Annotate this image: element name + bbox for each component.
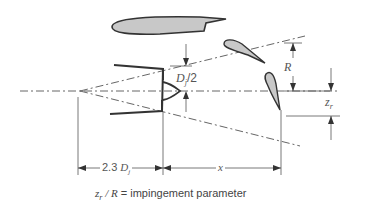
jet-spread-lower (80, 91, 300, 146)
nozzle-lower (110, 100, 162, 114)
offset-label: zr (325, 96, 333, 111)
half-diameter-label: Dj/2 (176, 72, 197, 87)
radius-label: R (284, 61, 291, 73)
impingement-diagram: Dj/2 R zr 2.3 Dj x zr / R = impingement … (0, 0, 372, 208)
figure-caption: zr / R = impingement parameter (95, 187, 246, 202)
axial-distance-label: x (216, 161, 225, 173)
wing-airfoil (112, 17, 226, 34)
diagram-graphics (0, 0, 372, 208)
flap-airfoil-upper (224, 40, 265, 63)
virtual-origin-distance-label: 2.3 Dj (100, 161, 132, 176)
nozzle-upper (114, 65, 163, 80)
nozzle-exit (162, 69, 163, 111)
